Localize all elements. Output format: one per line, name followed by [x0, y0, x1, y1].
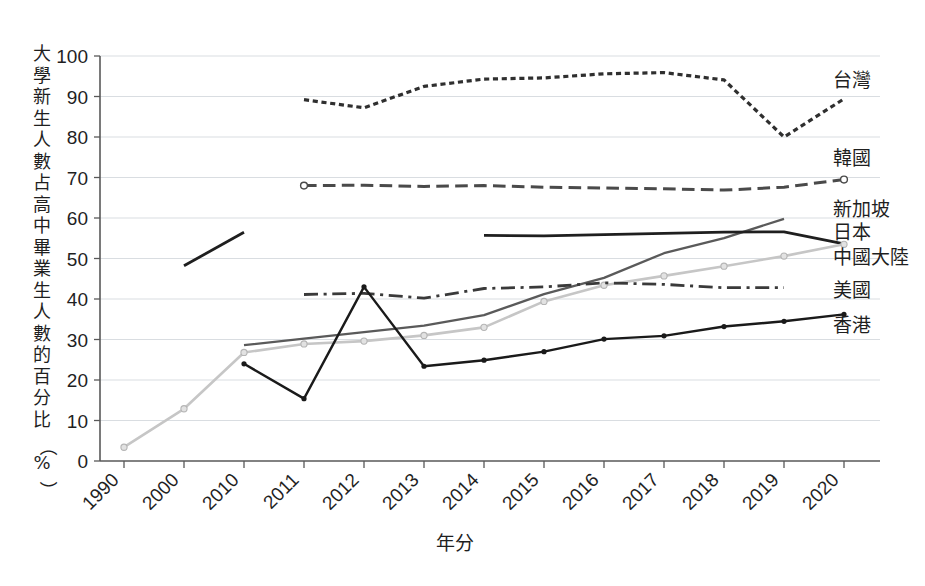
- series-line-台灣: [304, 73, 844, 137]
- x-tick-label: 2016: [558, 469, 603, 514]
- data-point-open: [301, 182, 308, 189]
- y-axis-title-char: %: [33, 452, 50, 473]
- x-tick-label: 2017: [618, 469, 663, 514]
- series-4: [121, 241, 847, 450]
- y-axis-title-char: 大: [33, 43, 51, 64]
- y-tick-label: 10: [67, 411, 88, 432]
- y-axis-title-char: 學: [33, 65, 51, 86]
- y-axis-title-char: 比: [33, 409, 51, 430]
- data-point: [661, 273, 667, 279]
- y-axis-title-char: 新: [33, 86, 51, 107]
- y-axis-title-char: 生: [33, 108, 51, 129]
- data-point: [781, 319, 786, 324]
- data-point: [481, 324, 487, 330]
- series-1: [301, 176, 848, 190]
- cropped-title: [520, 0, 920, 14]
- legend-label-新加坡[interactable]: 新加坡: [833, 198, 890, 220]
- data-point: [541, 349, 546, 354]
- series-line-中國大陸: [124, 244, 844, 447]
- legend-label-台灣[interactable]: 台灣: [833, 69, 871, 91]
- x-tick-label: 2011: [259, 469, 303, 513]
- data-point: [421, 364, 426, 369]
- data-point: [601, 336, 606, 341]
- y-axis-title-char: 人: [33, 129, 51, 150]
- x-tick-label: 2018: [678, 469, 723, 514]
- legend-label-香港[interactable]: 香港: [833, 314, 871, 336]
- y-axis-title-char: 中: [33, 215, 51, 236]
- y-tick-label: 30: [67, 330, 88, 351]
- legend-layer: 台灣韓國新加坡日本中國大陸美國香港: [833, 69, 909, 336]
- y-axis-title-char: ）: [38, 481, 59, 499]
- data-point: [541, 298, 547, 304]
- series-layer: [121, 73, 848, 451]
- y-axis-title-char: 分: [33, 387, 51, 408]
- y-axis-title-char: 畢: [33, 237, 51, 258]
- series-0: [304, 73, 844, 137]
- legend-label-日本[interactable]: 日本: [833, 221, 871, 243]
- y-tick-label: 50: [67, 249, 88, 270]
- x-tick-label: 2010: [198, 469, 243, 514]
- x-tick-labels: 1990200020102011201220132014201520162017…: [78, 469, 843, 514]
- y-tick-label: 80: [67, 127, 88, 148]
- x-tick-label: 2014: [438, 469, 483, 514]
- data-point: [241, 349, 247, 355]
- data-point: [781, 253, 787, 259]
- data-point: [301, 396, 306, 401]
- x-tick-label: 2012: [318, 469, 363, 514]
- legend-label-韓國[interactable]: 韓國: [833, 147, 871, 169]
- x-axis-title: 年分: [436, 532, 474, 554]
- series-3: [184, 232, 844, 266]
- series-line-韓國: [304, 180, 844, 191]
- y-axis-title-char: 高: [33, 194, 51, 215]
- x-tick-label: 2019: [738, 469, 783, 514]
- series-line-新加坡: [244, 219, 784, 345]
- y-tick-label: 90: [67, 87, 88, 108]
- y-tick-label: 60: [67, 208, 88, 229]
- data-point: [481, 358, 486, 363]
- x-tick-label: 1990: [78, 469, 123, 514]
- y-tick-label: 40: [67, 289, 88, 310]
- y-axis-title-char: 數: [33, 151, 51, 172]
- data-point: [181, 406, 187, 412]
- series-line-美國: [304, 283, 784, 298]
- series-line-日本: [184, 232, 244, 266]
- y-tick-label: 70: [67, 168, 88, 189]
- y-tick-label: 100: [56, 46, 88, 67]
- legend-label-美國[interactable]: 美國: [833, 279, 871, 301]
- x-tick-label: 2013: [378, 469, 423, 514]
- y-axis-title-char: 數: [33, 323, 51, 344]
- data-point-open: [841, 176, 848, 183]
- chart-canvas: 0102030405060708090100 19902000201020112…: [0, 0, 925, 586]
- data-point: [301, 341, 307, 347]
- gridlines: [100, 56, 880, 421]
- data-point: [721, 263, 727, 269]
- data-point: [661, 333, 666, 338]
- data-point: [721, 324, 726, 329]
- y-tick-label: 20: [67, 370, 88, 391]
- x-tick-label: 2015: [498, 469, 543, 514]
- x-tick-label: 2020: [798, 469, 843, 514]
- data-point: [241, 361, 246, 366]
- series-2: [244, 219, 784, 345]
- line-chart: 0102030405060708090100 19902000201020112…: [0, 0, 925, 586]
- y-axis-title-char: 人: [33, 301, 51, 322]
- y-axis-title-char: 占: [33, 172, 51, 193]
- series-5: [304, 283, 784, 298]
- y-tick-label: 0: [77, 451, 88, 472]
- y-axis-title-char: 百: [33, 366, 51, 387]
- y-axis-title-char: 的: [33, 344, 51, 365]
- series-line-日本: [484, 232, 844, 244]
- y-axis-title-char: 業: [33, 258, 51, 279]
- data-point: [361, 338, 367, 344]
- data-point: [361, 284, 366, 289]
- y-tick-labels: 0102030405060708090100: [56, 46, 88, 472]
- legend-label-中國大陸[interactable]: 中國大陸: [833, 246, 909, 268]
- data-point: [121, 444, 127, 450]
- y-axis-title-char: 生: [33, 280, 51, 301]
- data-point: [421, 332, 427, 338]
- x-tick-label: 2000: [138, 469, 183, 514]
